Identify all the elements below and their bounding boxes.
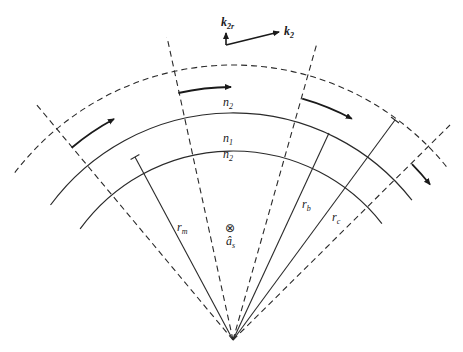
radius-rb-line xyxy=(233,133,329,340)
propagation-arrow-4 xyxy=(412,164,430,184)
propagation-arrow-2 xyxy=(178,87,231,93)
radius-rm-tick xyxy=(131,155,140,160)
radius-rc-label: rc xyxy=(332,210,341,226)
propagation-arrow-1 xyxy=(72,119,114,148)
dashed-radial-line-1 xyxy=(36,104,233,340)
core-index-label: n1 xyxy=(223,131,233,147)
k2r-label: k2r xyxy=(221,15,235,31)
radius-rm-line xyxy=(135,157,233,340)
into-page-axis-icon: ⊗ xyxy=(225,221,235,235)
bent-waveguide-diagram: k2r k2 n2 n1 n2 rm rb rc ⊗ âs xyxy=(0,0,463,352)
propagation-arrow-3 xyxy=(302,99,352,119)
axis-unit-vector-label: âs xyxy=(226,234,235,250)
radius-rb-label: rb xyxy=(302,197,311,213)
k2-label: k2 xyxy=(284,24,294,40)
outer-cladding-index-label: n2 xyxy=(223,95,233,111)
dashed-radial-line-3 xyxy=(233,43,317,340)
wave-vector-group: k2r k2 xyxy=(221,15,294,45)
inner-cladding-index-label: n2 xyxy=(223,147,233,163)
k2-arrow xyxy=(226,32,279,45)
dashed-radial-line-4 xyxy=(233,125,450,340)
radius-rm-label: rm xyxy=(177,220,188,236)
dashed-radial-line-2 xyxy=(167,37,233,340)
